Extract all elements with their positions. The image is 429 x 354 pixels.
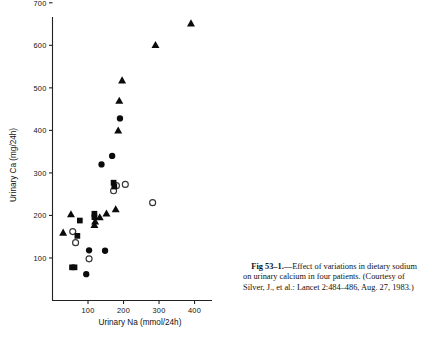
y-tick-label: 300 (34, 169, 47, 178)
caption-dash: — (284, 262, 292, 271)
plot-ticks (49, 3, 195, 304)
data-point (115, 97, 123, 104)
data-point (75, 233, 81, 239)
y-tick-label: 600 (34, 41, 47, 50)
data-point (72, 264, 78, 270)
data-point (92, 211, 98, 217)
data-point (117, 115, 123, 121)
x-tick-label: 400 (188, 306, 201, 315)
y-tick-label: 500 (34, 84, 47, 93)
data-point (150, 200, 156, 206)
data-point (77, 218, 83, 224)
figure-panel: 100200300400500600700100200300400 Urinar… (0, 0, 240, 354)
y-tick-label: 400 (34, 126, 47, 135)
series-patient-1 (59, 19, 195, 235)
data-point (102, 209, 110, 216)
x-axis-title: Urinary Na (mmol/24h) (99, 318, 182, 327)
data-point (59, 229, 67, 236)
scatter-plot: 100200300400500600700100200300400 Urinar… (0, 0, 240, 354)
data-point (118, 76, 126, 83)
plot-axes (53, 17, 213, 301)
plot-data-points (59, 19, 195, 277)
x-tick-label: 200 (117, 306, 130, 315)
data-point (83, 271, 89, 277)
data-point (102, 248, 108, 254)
data-point (152, 41, 160, 48)
data-point (109, 153, 115, 159)
series-patient-2 (83, 115, 123, 277)
data-point (111, 184, 117, 190)
data-point (187, 19, 195, 26)
y-tick-label: 100 (34, 254, 47, 263)
plot-tick-labels: 100200300400500600700100200300400 (34, 0, 201, 315)
data-point (114, 126, 122, 133)
figure-number: Fig 53–1. (251, 262, 283, 271)
data-point (73, 240, 79, 246)
y-axis-title: Urinary Ca (mg/24h) (9, 128, 18, 202)
data-point (86, 256, 92, 262)
x-tick-label: 100 (82, 306, 95, 315)
data-point (122, 181, 128, 187)
data-point (67, 210, 75, 217)
y-tick-label: 200 (34, 211, 47, 220)
figure-caption: Fig 53–1.—Effect of variations in dietar… (243, 262, 425, 293)
data-point (86, 247, 92, 253)
data-point (98, 161, 104, 167)
x-tick-label: 300 (153, 306, 166, 315)
data-point (112, 205, 120, 212)
y-tick-label: 700 (34, 0, 47, 7)
